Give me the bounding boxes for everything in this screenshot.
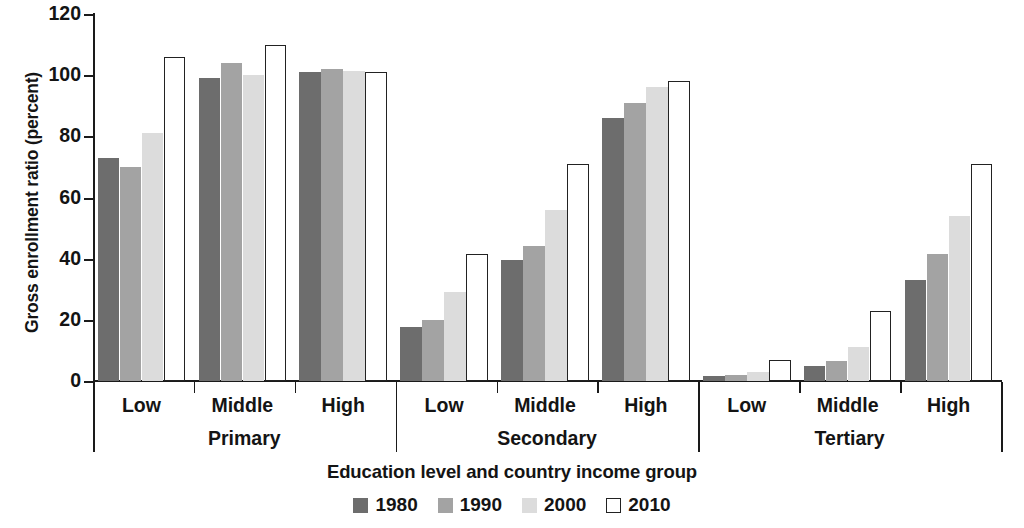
education-level-label: Tertiary <box>815 427 885 450</box>
legend-label: 1980 <box>375 494 417 516</box>
income-group-tick <box>295 382 297 393</box>
income-group-label: Low <box>425 394 464 417</box>
income-group-cluster <box>396 14 497 381</box>
y-tick-label: 100 <box>13 63 81 86</box>
income-group-cluster <box>194 14 295 381</box>
bar-1990-primary-middle <box>221 63 243 381</box>
income-group-cluster <box>295 14 396 381</box>
legend-item-2010[interactable]: 2010 <box>606 494 670 516</box>
income-group-label: High <box>624 394 667 417</box>
y-tick-label: 40 <box>13 247 81 270</box>
bar-1980-tertiary-middle <box>804 366 826 381</box>
bar-2000-tertiary-high <box>949 216 971 381</box>
education-level-separator <box>698 382 700 452</box>
y-tick-label: 20 <box>13 308 81 331</box>
bar-2010-primary-high <box>365 72 387 381</box>
bar-2010-secondary-high <box>668 81 690 381</box>
y-tick-mark <box>84 381 93 383</box>
income-group-tick <box>497 382 499 393</box>
education-level-group <box>698 14 1001 381</box>
education-level-label: Secondary <box>497 427 597 450</box>
education-level-group <box>396 14 699 381</box>
bar-2010-secondary-middle <box>567 164 589 381</box>
chart-legend: 1980199020002010 <box>0 494 1024 516</box>
bar-1980-primary-high <box>299 72 321 381</box>
bar-1980-secondary-high <box>602 118 624 381</box>
income-group-label: Low <box>122 394 161 417</box>
education-level-group <box>93 14 396 381</box>
bar-1980-primary-middle <box>199 78 221 381</box>
bar-1990-primary-low <box>120 167 142 381</box>
bar-2010-primary-low <box>164 57 186 381</box>
bar-1980-tertiary-low <box>703 376 725 381</box>
income-group-label: Middle <box>817 394 879 417</box>
medium-gray-swatch <box>438 498 453 513</box>
bar-2010-primary-middle <box>265 45 287 381</box>
bar-1980-tertiary-high <box>905 280 927 381</box>
bar-chart-figure: Gross enrollment ratio (percent) 0204060… <box>0 0 1024 528</box>
legend-label: 2010 <box>628 494 670 516</box>
legend-item-1980[interactable]: 1980 <box>353 494 417 516</box>
income-group-label: High <box>322 394 365 417</box>
income-group-label: Low <box>727 394 766 417</box>
education-level-label: Primary <box>208 427 281 450</box>
income-group-tick <box>900 382 902 393</box>
income-group-cluster <box>93 14 194 381</box>
bar-2000-primary-high <box>343 71 365 381</box>
bar-2000-tertiary-middle <box>848 347 870 381</box>
income-group-tick <box>194 382 196 393</box>
income-group-cluster <box>799 14 900 381</box>
income-group-label: Middle <box>211 394 273 417</box>
income-group-label: Middle <box>514 394 576 417</box>
bar-2000-secondary-middle <box>545 210 567 381</box>
bar-2010-tertiary-low <box>769 360 791 381</box>
bar-groups-container <box>93 14 1001 381</box>
y-tick-label: 0 <box>13 369 81 392</box>
y-tick-mark <box>84 14 93 16</box>
legend-label: 2000 <box>544 494 586 516</box>
legend-item-1990[interactable]: 1990 <box>438 494 502 516</box>
y-tick-label: 60 <box>13 186 81 209</box>
plot-area: 020406080100120 <box>93 14 1001 381</box>
y-tick-mark <box>84 259 93 261</box>
y-tick-mark <box>84 320 93 322</box>
y-tick-mark <box>84 198 93 200</box>
bar-2010-secondary-low <box>466 254 488 381</box>
income-group-cluster <box>900 14 1001 381</box>
bar-2000-primary-middle <box>243 75 265 381</box>
bar-2000-primary-low <box>142 133 164 381</box>
bar-1990-tertiary-low <box>725 375 747 381</box>
bar-1990-primary-high <box>321 69 343 381</box>
y-tick-mark <box>84 75 93 77</box>
income-group-cluster <box>497 14 598 381</box>
bar-2010-tertiary-high <box>971 164 993 381</box>
income-group-cluster <box>597 14 698 381</box>
category-band-left-border <box>93 382 95 452</box>
x-axis-title: Education level and country income group <box>0 461 1024 483</box>
bar-1990-tertiary-middle <box>826 361 848 381</box>
income-group-tick <box>799 382 801 393</box>
legend-item-2000[interactable]: 2000 <box>522 494 586 516</box>
bar-2000-secondary-high <box>646 87 668 381</box>
dark-gray-swatch <box>353 498 368 513</box>
light-gray-swatch <box>522 498 537 513</box>
bar-2010-tertiary-middle <box>870 311 892 381</box>
bar-1990-secondary-low <box>422 320 444 381</box>
income-group-label: High <box>927 394 970 417</box>
white-outline-swatch <box>606 498 621 513</box>
bar-1980-primary-low <box>98 158 120 381</box>
legend-label: 1990 <box>460 494 502 516</box>
x-axis-category-band: LowMiddleHighPrimaryLowMiddleHighSeconda… <box>93 382 1002 454</box>
bar-1990-tertiary-high <box>927 254 949 381</box>
bar-1980-secondary-middle <box>501 260 523 381</box>
bar-2000-secondary-low <box>444 292 466 381</box>
y-tick-label: 120 <box>13 2 81 25</box>
education-level-separator <box>396 382 398 452</box>
income-group-tick <box>597 382 599 393</box>
y-tick-mark <box>84 136 93 138</box>
bar-1990-secondary-middle <box>523 246 545 381</box>
income-group-cluster <box>698 14 799 381</box>
bar-2000-tertiary-low <box>747 372 769 381</box>
bar-1990-secondary-high <box>624 103 646 381</box>
bar-1980-secondary-low <box>400 327 422 381</box>
